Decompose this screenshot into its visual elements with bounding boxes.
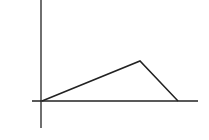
graph-diagram xyxy=(0,0,209,140)
triangle-function-line xyxy=(42,61,178,101)
